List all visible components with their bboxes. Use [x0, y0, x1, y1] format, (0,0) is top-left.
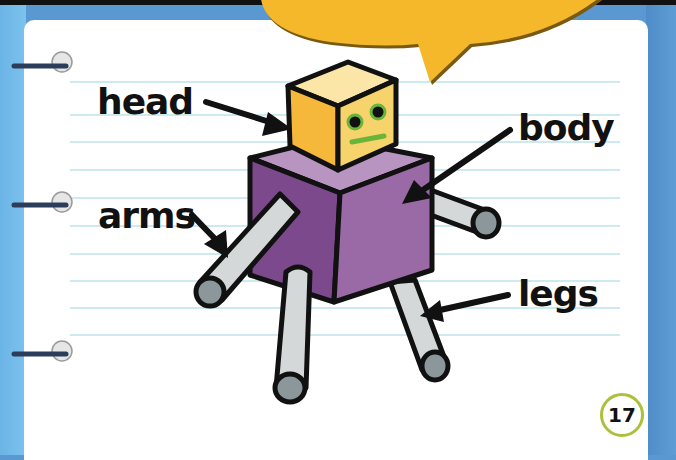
speech-bubble: [260, 0, 622, 85]
binder-ring-icon: [14, 341, 72, 361]
label-arms: arms: [98, 198, 195, 234]
arrow-icon: [192, 215, 228, 258]
robot-head: [288, 62, 396, 170]
label-body: body: [518, 110, 614, 146]
binder-ring-icon: [14, 52, 72, 72]
label-legs: legs: [518, 276, 598, 312]
page-number: 17: [608, 403, 636, 427]
page-number-badge: 17: [600, 393, 644, 437]
arrow-icon: [206, 102, 292, 136]
robot-eye-left: [348, 115, 362, 129]
label-head: head: [97, 84, 193, 120]
robot-eye-right: [371, 105, 385, 119]
binder-ring-icon: [14, 192, 72, 212]
robot-leg-right: [390, 280, 448, 380]
